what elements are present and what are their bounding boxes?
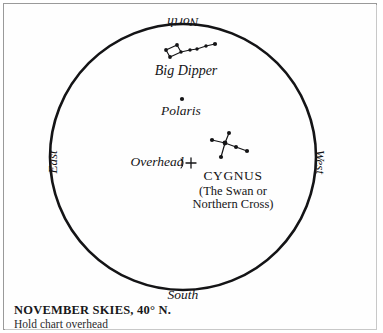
cardinal-north: North	[167, 15, 200, 30]
cardinal-north-label: North	[167, 15, 200, 30]
zenith-marker-group: Overhead	[131, 154, 197, 169]
cygnus-label: CYGNUS	[203, 168, 262, 183]
constellation-big-dipper: Big Dipper	[155, 42, 218, 78]
overhead-label: Overhead	[131, 154, 184, 169]
constellation-cygnus: CYGNUS (The Swan or Northern Cross)	[193, 131, 274, 211]
polaris-label: Polaris	[160, 103, 201, 118]
cygnus-lines	[212, 133, 247, 157]
cardinal-east: East	[45, 150, 60, 175]
star-chart-page: North East West South	[0, 0, 383, 333]
cardinal-south: South	[168, 287, 199, 302]
cygnus-sublabel-line1: (The Swan or	[199, 184, 268, 198]
cardinal-west: West	[313, 150, 328, 174]
chart-caption: NOVEMBER SKIES, 40° N. Hold chart overhe…	[14, 303, 264, 331]
cardinal-east-label: East	[45, 150, 60, 175]
zenith-plus-icon	[186, 158, 196, 168]
cardinal-west-label: West	[313, 150, 328, 174]
caption-instruction: Hold chart overhead	[14, 318, 264, 331]
star-polaris: Polaris	[160, 97, 201, 118]
caption-title: NOVEMBER SKIES, 40° N.	[14, 303, 264, 317]
cygnus-sublabel-line2: Northern Cross)	[193, 197, 274, 211]
big-dipper-label: Big Dipper	[155, 63, 218, 78]
polaris-star-dot	[180, 97, 184, 101]
sky-chart: North East West South	[0, 0, 383, 333]
cardinal-south-label: South	[168, 287, 199, 302]
